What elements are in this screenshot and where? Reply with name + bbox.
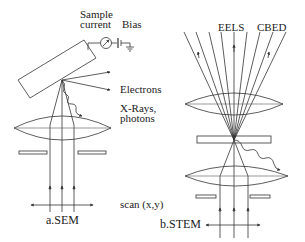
stem-panel: [184, 32, 288, 238]
sem-caption: a.SEM: [46, 215, 79, 225]
stem-aperture: [196, 195, 270, 198]
xrays-label-line2: photons: [120, 113, 156, 123]
sample-current-meter: [88, 38, 117, 51]
stem-xray-wavy-arrow: [234, 140, 280, 170]
eels-label: EELS: [218, 22, 244, 32]
scan-label: scan (x,y): [120, 199, 163, 209]
sample-label-line2: current: [80, 19, 113, 29]
sem-stem-diagram: .t { position: absolute; font-family: "L…: [0, 0, 305, 242]
bias-ground-icon: [118, 38, 134, 51]
xray-wavy-arrow: [62, 80, 82, 116]
stem-probe-beam: [220, 140, 248, 238]
electrons-label: Electrons: [120, 84, 162, 94]
sem-aperture: [19, 151, 106, 154]
cbed-label: CBED: [257, 22, 286, 32]
sem-panel: [14, 38, 134, 213]
sem-beam: [50, 80, 74, 212]
stem-objective-lens: [185, 166, 288, 186]
stem-diffraction-rays: [184, 32, 286, 140]
sem-lens: [14, 116, 111, 140]
bias-label: Bias: [122, 19, 142, 29]
sample-current-label: Sample current: [80, 9, 113, 29]
xrays-label: X-Rays, photons: [120, 103, 156, 123]
sem-sample: [18, 40, 96, 98]
stem-caption: b.STEM: [160, 219, 201, 229]
